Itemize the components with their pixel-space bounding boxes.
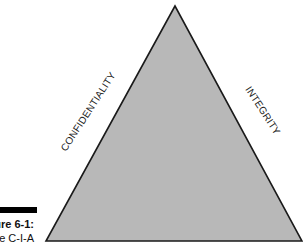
figure-label: Figure 6-1: bbox=[0, 218, 34, 230]
caption-divider bbox=[0, 207, 37, 213]
figure-caption: The C-I-A bbox=[0, 232, 34, 244]
cia-triangle-diagram bbox=[0, 0, 303, 251]
